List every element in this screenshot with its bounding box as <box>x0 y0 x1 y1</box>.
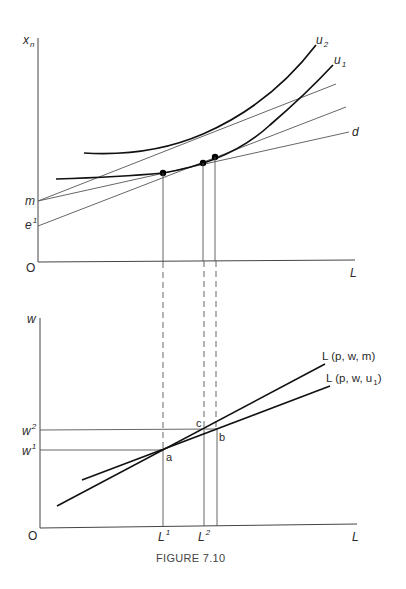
figure-canvas: xn L O m e1 d u2 u1 <box>0 0 406 589</box>
wage-line-w2 <box>40 429 217 430</box>
connector-lines <box>163 261 216 450</box>
line-d-label: d <box>352 125 359 139</box>
wage-w2-label: w2 <box>22 422 37 438</box>
indifference-curve-u1 <box>56 65 333 179</box>
figure-caption: FIGURE 7.10 <box>156 552 225 564</box>
point-a-label: a <box>166 451 173 463</box>
upper-panel: xn L O m e1 d u2 u1 <box>22 33 359 280</box>
curve-u1-label: u1 <box>334 53 346 69</box>
labor-L2-label: L2 <box>198 528 211 544</box>
labor-L1-label: L1 <box>158 528 170 544</box>
lower-y-axis-label: w <box>27 312 37 326</box>
lower-origin-label: O <box>28 529 37 543</box>
supply-curve-m-label: L (p, w, m) <box>322 350 375 362</box>
point-c-label: c <box>196 417 202 429</box>
upper-x-axis <box>38 260 355 262</box>
intercept-e1-label: e1 <box>25 216 37 232</box>
wage-w1-label: w1 <box>22 442 36 458</box>
lower-panel: w L O w2 w1 L (p, w, m) L (p, w, u1) a b… <box>22 312 382 544</box>
lower-x-axis <box>40 524 357 528</box>
upper-y-axis-label: xn <box>22 33 35 49</box>
upper-origin-label: O <box>26 261 35 275</box>
supply-curve-L-p-w-u1 <box>82 386 330 480</box>
lower-x-axis-label: L <box>352 530 359 544</box>
budget-line-m-upper <box>38 84 336 201</box>
upper-x-axis-label: L <box>350 266 357 280</box>
curve-u2-label: u2 <box>316 33 329 49</box>
supply-curve-u1-label: L (p, w, u1) <box>326 372 382 387</box>
supply-curve-L-p-w-m <box>57 364 325 506</box>
point-b-label: b <box>219 431 225 443</box>
intercept-m-label: m <box>25 194 35 208</box>
